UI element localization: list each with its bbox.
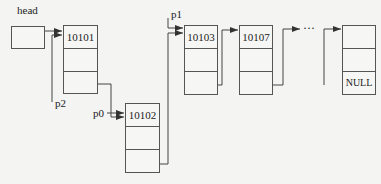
node-data-cell: 10107 (240, 26, 272, 49)
ellipsis: ··· (303, 23, 315, 34)
node-middle-cell (185, 49, 217, 72)
list-node-10101: 10101 (63, 25, 98, 94)
pointer-label-p2: p2 (55, 98, 66, 109)
node-middle-cell (126, 127, 159, 150)
node-null-cell: NULL (343, 72, 375, 95)
node-data-cell: 10103 (185, 26, 217, 49)
node-middle-cell (343, 49, 375, 72)
pointer-label-p1: p1 (171, 9, 182, 20)
node-data-cell: 10101 (64, 26, 97, 49)
node-data-cell (343, 26, 375, 49)
node-middle-cell (64, 49, 97, 72)
list-node-10107: 10107 (239, 25, 273, 95)
head-label: head (17, 5, 38, 16)
linked-list-diagram: head p2 p0 p1 10101 10102 10103 10107 ··… (0, 0, 381, 184)
pointer-label-p0: p0 (93, 108, 104, 119)
node-data-cell: 10102 (126, 104, 159, 127)
node-next-cell (240, 72, 272, 95)
node-next-cell (126, 150, 159, 173)
node-next-cell (64, 72, 97, 94)
list-node-10102: 10102 (125, 103, 160, 173)
node-middle-cell (240, 49, 272, 72)
head-pointer-box (11, 26, 45, 49)
list-node-tail: NULL (342, 25, 376, 95)
node-next-cell (185, 72, 217, 95)
list-node-10103: 10103 (184, 25, 218, 95)
